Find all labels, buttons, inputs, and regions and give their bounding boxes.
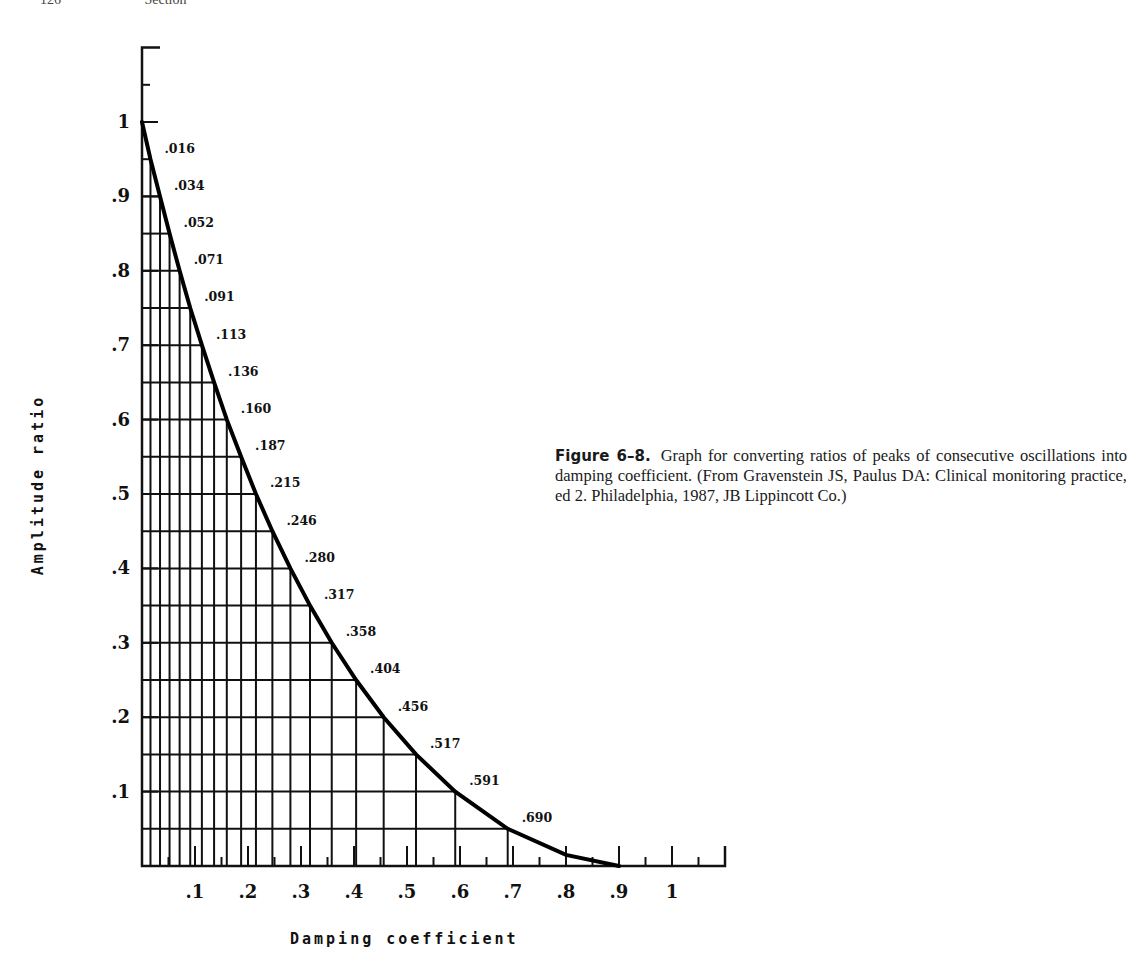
x-tick-label: .4	[345, 881, 364, 902]
curve-point-label: .091	[204, 289, 234, 304]
y-axis-label: Amplitude ratio	[29, 395, 47, 575]
curve-point-label: .690	[522, 810, 553, 825]
x-tick-label: .6	[451, 881, 470, 902]
curve-point-label: .456	[398, 699, 429, 714]
curve-point-label: .160	[241, 401, 272, 416]
y-tick-label: .7	[111, 334, 130, 355]
y-tick-label: 1	[117, 111, 130, 132]
figure-caption: Figure 6–8.Graph for converting ratios o…	[555, 446, 1127, 506]
y-tick-label: .6	[111, 409, 130, 430]
x-tick-label: .2	[239, 881, 258, 902]
x-tick-label: .3	[292, 881, 311, 902]
curve-point-label: .280	[304, 550, 335, 565]
x-tick-label: .8	[557, 881, 576, 902]
curve-point-label: .517	[430, 736, 460, 751]
x-tick-label: .7	[504, 881, 523, 902]
y-tick-label: .3	[111, 632, 130, 653]
y-tick-label: .8	[111, 260, 130, 281]
x-tick-label: 1	[666, 881, 679, 902]
curve-point-label: .591	[469, 773, 499, 788]
y-tick-label: .4	[111, 557, 130, 578]
curve-point-label: .187	[255, 438, 285, 453]
x-tick-label: .9	[610, 881, 629, 902]
curve-point-label: .404	[370, 661, 401, 676]
curve-point-label: .136	[228, 364, 259, 379]
curve-point-label: .246	[286, 513, 317, 528]
x-tick-label: .1	[186, 881, 205, 902]
y-tick-label: .2	[111, 706, 130, 727]
y-tick-label: .5	[111, 483, 130, 504]
curve-point-label: .071	[194, 252, 224, 267]
x-tick-label: .5	[398, 881, 417, 902]
curve-point-label: .052	[184, 215, 214, 230]
y-tick-label: .9	[111, 185, 130, 206]
figure-label: Figure 6–8.	[555, 447, 651, 465]
curve-point-label: .215	[270, 475, 300, 490]
curve-point-label: .016	[164, 141, 195, 156]
curve-point-label: .317	[324, 587, 354, 602]
curve-point-label: .113	[216, 327, 246, 342]
curve-point-label: .358	[346, 624, 377, 639]
x-axis-label: Damping coefficient	[290, 930, 519, 948]
curve-point-label: .034	[174, 178, 205, 193]
y-tick-label: .1	[111, 781, 130, 802]
